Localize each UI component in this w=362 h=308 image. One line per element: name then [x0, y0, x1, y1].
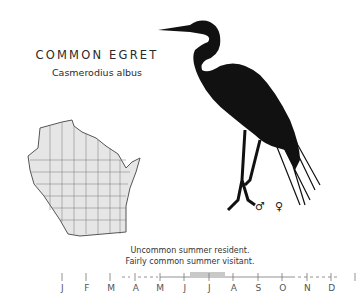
wisconsin-map: [0, 110, 150, 245]
status-text: Uncommon summer resident. Fairly common …: [90, 245, 290, 267]
month-label: J: [173, 283, 198, 293]
male-symbol-icon: ♂: [255, 200, 265, 213]
month-labels: J F M A M J J A S O N D: [50, 283, 360, 293]
occurrence-bar: [50, 269, 360, 283]
seasonal-timeline: J F M A M J J A S O N D: [50, 268, 360, 308]
female-symbol-icon: ♀: [275, 200, 283, 213]
month-label: N: [295, 283, 320, 293]
month-label: O: [271, 283, 296, 293]
month-label: D: [320, 283, 345, 293]
egret-silhouette: ♂ ♀: [150, 0, 350, 220]
month-label: A: [124, 283, 149, 293]
month-label: J: [197, 283, 222, 293]
month-label: S: [246, 283, 271, 293]
status-line-2: Fairly common summer visitant.: [90, 256, 290, 267]
month-label: A: [222, 283, 247, 293]
month-label: F: [75, 283, 100, 293]
month-label: J: [50, 283, 75, 293]
status-line-1: Uncommon summer resident.: [90, 245, 290, 256]
month-label: M: [99, 283, 124, 293]
month-label: M: [148, 283, 173, 293]
